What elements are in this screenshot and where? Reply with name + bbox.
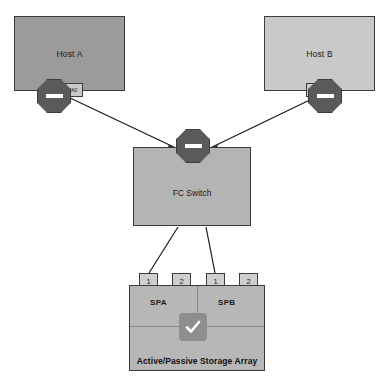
spb-label: SPB [218, 298, 235, 307]
blocked-link-icon-switch [176, 129, 210, 163]
checkmark-icon [179, 313, 207, 341]
blocked-link-icon-host-b [308, 79, 342, 113]
host-a-label: Host A [56, 49, 82, 59]
host-b-label: Host B [306, 49, 333, 59]
blocked-bar [185, 144, 202, 148]
spa-label: SPA [150, 298, 167, 307]
blocked-bar [317, 94, 334, 98]
storage-array-caption: Active/Passive Storage Array [130, 356, 264, 366]
host-a-box[interactable]: Host A [14, 16, 125, 91]
blocked-bar [46, 94, 63, 98]
diagram-canvas: Host A HA0 Host B HB FC Switch 1 2 1 2 S… [0, 0, 386, 387]
fc-switch-label: FC Switch [173, 188, 212, 198]
